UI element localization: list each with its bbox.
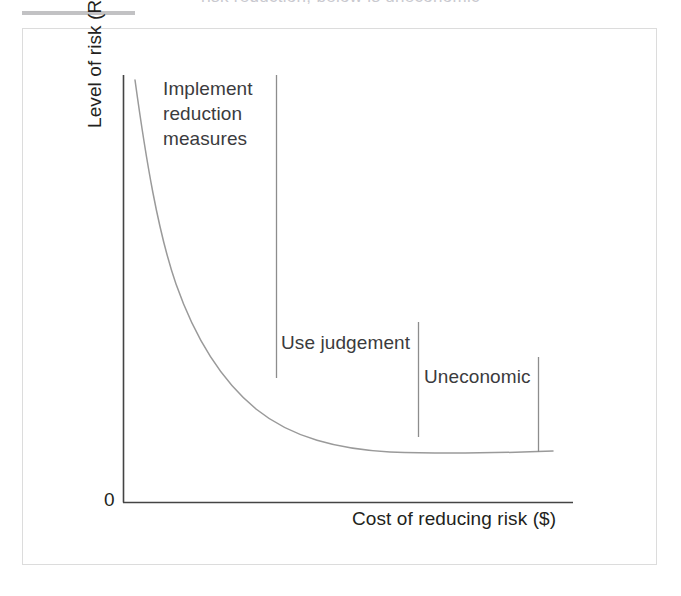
figure-page: risk reduction; below is uneconomic Leve…: [0, 0, 681, 596]
y-axis-label: Level of risk (Risk value): [84, 0, 106, 128]
origin-zero-label: 0: [104, 489, 115, 511]
figure-frame-box: [22, 28, 657, 565]
zone-label-uneconomic: Uneconomic: [424, 364, 531, 389]
zone-label-implement: Implement reduction measures: [163, 76, 253, 151]
gray-rule-bar: [22, 11, 135, 15]
x-axis-label: Cost of reducing risk ($): [352, 508, 556, 530]
cutoff-caption-left: risk reduction; below is uneconomic: [201, 0, 480, 6]
zone-label-judgement: Use judgement: [281, 330, 410, 355]
